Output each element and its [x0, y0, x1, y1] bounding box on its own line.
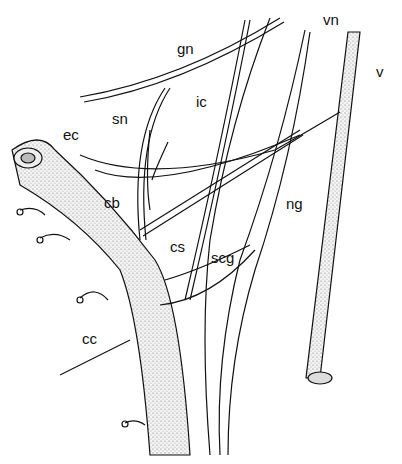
anatomy-figure: gn vn v ic sn ec cb ng cs scg cc — [0, 0, 402, 464]
label-ic: ic — [196, 94, 207, 109]
label-gn: gn — [177, 41, 194, 56]
label-ec: ec — [63, 127, 79, 142]
label-cc: cc — [82, 331, 97, 346]
label-sn: sn — [112, 111, 128, 126]
label-ng: ng — [286, 196, 303, 211]
label-vn: vn — [323, 12, 339, 27]
label-cb: cb — [104, 195, 120, 210]
label-cs: cs — [170, 239, 185, 254]
anatomy-drawing — [0, 0, 402, 464]
label-scg: scg — [211, 250, 234, 265]
label-v: v — [376, 64, 384, 79]
